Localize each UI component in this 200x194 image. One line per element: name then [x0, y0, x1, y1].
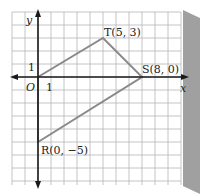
x-unit-label: 1 [46, 81, 53, 94]
arrow-down-icon [35, 181, 41, 189]
page-shadow [183, 10, 200, 194]
coordinate-plane: y x O 1 1 T(5, 3) S(8, 0) R(0, −5) [0, 0, 200, 194]
origin-label: O [26, 81, 35, 94]
x-axis-label: x [180, 82, 187, 95]
y-axis-label: y [25, 14, 33, 27]
y-unit-label: 1 [28, 61, 35, 74]
arrow-up-icon [35, 9, 41, 17]
arrow-left-icon [10, 74, 18, 80]
point-S-label: S(8, 0) [142, 63, 179, 76]
point-T-label: T(5, 3) [104, 26, 141, 39]
point-R-label: R(0, −5) [41, 144, 88, 157]
axis-arrowheads [10, 9, 189, 189]
